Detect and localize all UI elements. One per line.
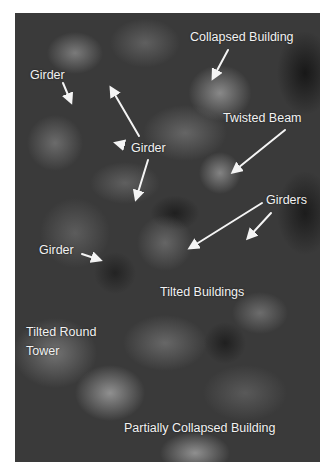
- label-tilted-buildings: Tilted Buildings: [160, 285, 244, 299]
- label-collapsed-building: Collapsed Building: [190, 30, 294, 44]
- label-girder-center: Girder: [131, 141, 166, 155]
- label-girders: Girders: [266, 193, 307, 207]
- label-tilted-round-tower-line2: Tower: [26, 344, 59, 358]
- label-girder-left: Girder: [39, 243, 74, 257]
- label-girder-top-left: Girder: [30, 68, 65, 82]
- label-partially-collapsed-building: Partially Collapsed Building: [124, 421, 275, 435]
- label-tilted-round-tower-line1: Tilted Round: [26, 325, 96, 339]
- label-twisted-beam: Twisted Beam: [223, 111, 302, 125]
